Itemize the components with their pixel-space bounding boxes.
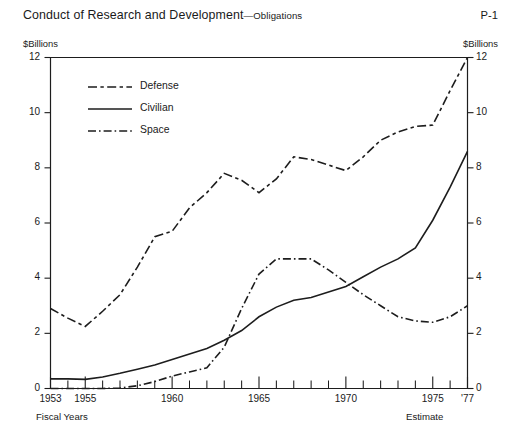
series-line-space xyxy=(51,259,468,389)
x-axis-note-right: Estimate xyxy=(406,411,443,422)
y-axis-tick-label: 4 xyxy=(18,271,40,282)
y-axis-tick-label-right: 0 xyxy=(476,382,498,393)
y-axis-tick-label: 0 xyxy=(18,382,40,393)
x-axis-tick-label: 1965 xyxy=(248,393,270,404)
y-axis-tick-label-right: 8 xyxy=(476,161,498,172)
series-line-defense xyxy=(51,58,468,327)
line-chart xyxy=(0,0,516,439)
y-axis-tick-label: 8 xyxy=(18,161,40,172)
plot-frame xyxy=(51,58,468,389)
y-axis-tick-label-right: 4 xyxy=(476,271,498,282)
x-axis-tick-label: 1960 xyxy=(161,393,183,404)
y-axis-tick-label: 10 xyxy=(18,106,40,117)
series-line-civilian xyxy=(51,151,468,379)
y-axis-tick-label: 12 xyxy=(18,51,40,62)
y-axis-tick-label: 6 xyxy=(18,216,40,227)
plot-area xyxy=(0,0,516,439)
x-axis-tick-label: 1975 xyxy=(422,393,444,404)
y-axis-tick-label: 2 xyxy=(18,326,40,337)
legend-label-defense: Defense xyxy=(140,80,179,91)
x-axis-tick-label: '77 xyxy=(461,393,474,404)
y-axis-tick-label-right: 6 xyxy=(476,216,498,227)
x-axis-tick-label: 1955 xyxy=(74,393,96,404)
x-axis-note-left: Fiscal Years xyxy=(36,411,88,422)
chart-page: Conduct of Research and Development—Obli… xyxy=(0,0,516,439)
y-axis-tick-label-right: 12 xyxy=(476,51,498,62)
y-axis-tick-label-right: 10 xyxy=(476,106,498,117)
legend-label-space: Space xyxy=(140,124,169,135)
x-axis-tick-label: 1970 xyxy=(335,393,357,404)
x-axis-tick-label: 1953 xyxy=(39,393,61,404)
y-axis-tick-label-right: 2 xyxy=(476,326,498,337)
legend-label-civilian: Civilian xyxy=(140,102,174,113)
